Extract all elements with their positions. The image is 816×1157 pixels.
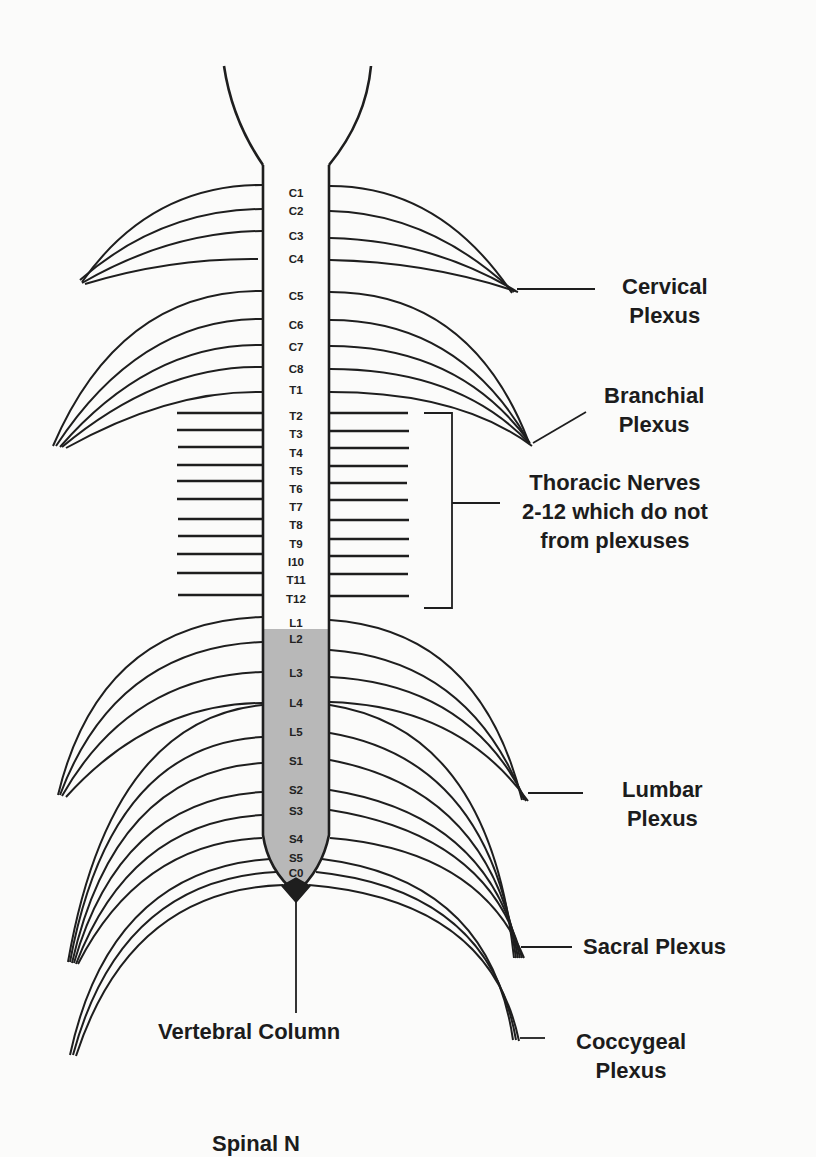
segment-label: T4 [289, 447, 303, 459]
segment-label: C1 [289, 187, 304, 199]
segment-label: T6 [289, 483, 302, 495]
segment-label: T12 [286, 593, 306, 605]
lumbar-plexus-label: Lumbar Plexus [622, 775, 703, 833]
branchial-plexus-label: Branchial Plexus [604, 381, 704, 439]
segment-label: T2 [289, 410, 302, 422]
segment-label: T7 [289, 501, 302, 513]
segment-label: C0 [289, 867, 304, 879]
segment-label: C4 [289, 253, 304, 265]
segment-label: C5 [289, 290, 304, 302]
segment-label: T3 [289, 428, 302, 440]
cervical-plexus-label: Cervical Plexus [622, 272, 708, 330]
sacral-plexus-label: Sacral Plexus [583, 932, 726, 961]
segment-label: T11 [286, 574, 306, 586]
coccygeal-plexus-label: Coccygeal Plexus [576, 1027, 686, 1085]
figure-caption-partial: Spinal N [212, 1131, 300, 1157]
segment-label: C8 [289, 363, 304, 375]
segment-label: L3 [289, 667, 302, 679]
thoracic-nerves-label: Thoracic Nerves 2-12 which do not from p… [522, 468, 708, 555]
segment-label: S2 [289, 784, 303, 796]
segment-label: C2 [289, 205, 304, 217]
vertebral-column-label: Vertebral Column [158, 1019, 340, 1045]
segment-label: T8 [289, 519, 303, 531]
segment-label: T9 [289, 538, 302, 550]
segment-label: L1 [289, 617, 303, 629]
segment-label: S3 [289, 805, 303, 817]
segment-label: C7 [289, 341, 304, 353]
segment-label: S5 [289, 852, 304, 864]
segment-label: L2 [289, 633, 302, 645]
segment-label: L5 [289, 726, 303, 738]
segment-label: T5 [289, 465, 303, 477]
segment-label: C6 [289, 319, 304, 331]
segment-label: L4 [289, 697, 303, 709]
segment-label: S4 [289, 833, 304, 845]
segment-label: C3 [289, 230, 304, 242]
segment-label: S1 [289, 755, 304, 767]
segment-label: T1 [289, 384, 303, 396]
segment-label: I10 [288, 556, 304, 568]
